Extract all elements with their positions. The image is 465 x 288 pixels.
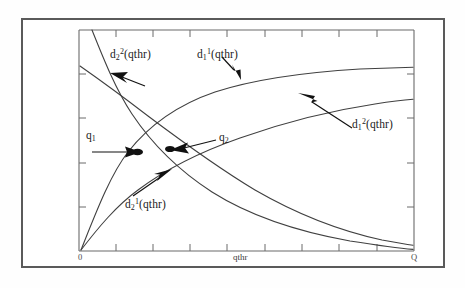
label-sub: 1 [92,134,96,143]
label-sub: 2 [225,136,229,145]
curve-label-d2-1: d21(qthr) [125,198,166,212]
y-axis-ticks [79,74,86,207]
label-arg: (qthr) [211,48,238,60]
label-arg: (qthr) [124,48,151,60]
label-arg: (qthr) [139,198,166,210]
y-axis-ticks-right [407,74,414,207]
x-axis-origin-label: 0 [78,253,82,262]
arrow-q1 [92,147,141,158]
arrow-q2 [170,140,216,154]
curve-d2-2 [92,30,413,249]
x-axis-max-label: Q [411,253,417,262]
curve-label-d1-1: d11(qthr) [197,48,238,62]
x-axis-ticks [116,244,377,251]
plot-svg [0,0,465,288]
arrow-d1-2 [298,93,352,128]
x-axis-label: qthr [233,253,248,262]
x-axis-ticks-top [116,30,377,37]
curve-label-d2-2: d22(qthr) [110,48,151,62]
arrow-d2-1 [133,169,172,196]
marker-label-q1: q1 [86,130,96,143]
axis-group [79,30,414,251]
marker-label-q2: q2 [219,132,229,145]
label-arg: (qthr) [366,118,393,130]
curve-d1-1 [81,67,413,250]
figure-root: d22(qthr) d11(qthr) d12(qthr) d21(qthr) … [0,0,465,288]
curve-label-d1-2: d12(qthr) [352,118,393,132]
